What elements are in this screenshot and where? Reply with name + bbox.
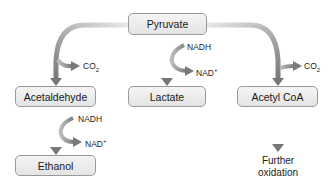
nad-lactate-text: NAD [196, 68, 214, 78]
co2-right-text: CO [304, 61, 317, 71]
node-ethanol: Ethanol [15, 155, 96, 176]
node-further-oxidation: Further oxidation [248, 155, 308, 179]
node-acetyl-coa: Acetyl CoA [237, 86, 318, 107]
nadh-label-lactate: NADH [187, 43, 211, 52]
node-acetaldehyde: Acetaldehyde [15, 86, 96, 107]
node-pyruvate-label: Pyruvate [147, 18, 188, 30]
node-pyruvate: Pyruvate [128, 13, 207, 35]
node-acetaldehyde-label: Acetaldehyde [24, 91, 88, 103]
nad-ethanol-text: NAD [85, 139, 103, 149]
nad-label-ethanol: NAD+ [85, 138, 106, 148]
further-oxidation-line2: oxidation [248, 167, 308, 179]
node-acetyl-coa-label: Acetyl CoA [252, 91, 304, 103]
node-ethanol-label: Ethanol [38, 160, 74, 172]
arrow-pyruvate-to-acetaldehyde [50, 25, 128, 86]
nad-lactate-superscript: + [214, 67, 218, 73]
arrow-pyruvate-to-acetyl-coa [207, 25, 302, 86]
further-oxidation-line1: Further [248, 155, 308, 167]
nad-label-lactate: NAD+ [196, 67, 217, 77]
nad-ethanol-superscript: + [103, 138, 107, 144]
co2-label-right: CO2 [304, 62, 320, 73]
nadh-lactate-text: NADH [187, 42, 211, 52]
arrow-acetyl-coa-to-further-oxidation [272, 106, 284, 152]
nadh-label-ethanol: NADH [78, 115, 102, 124]
nadh-ethanol-text: NADH [78, 114, 102, 124]
co2-right-subscript: 2 [317, 67, 320, 73]
node-lactate: Lactate [128, 86, 206, 107]
co2-left-text: CO [83, 61, 96, 71]
co2-left-subscript: 2 [96, 67, 99, 73]
co2-label-left: CO2 [83, 62, 99, 73]
node-lactate-label: Lactate [150, 91, 184, 103]
